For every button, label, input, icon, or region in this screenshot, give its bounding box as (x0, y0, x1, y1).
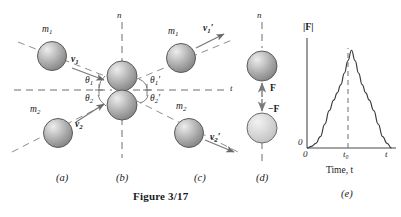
label-theta2-prime: θ2′ (150, 94, 160, 105)
label-theta1-prime: θ1′ (150, 76, 160, 87)
label-theta1: θ1 (85, 76, 93, 87)
panel-label-a: (a) (56, 173, 68, 184)
label-t-axis: t (230, 84, 233, 93)
label-theta2: θ2 (85, 94, 93, 105)
label-v1: v1 (71, 55, 79, 66)
chart-tick-t: t (385, 150, 388, 159)
label-m2-incoming: m2 (30, 105, 40, 116)
label-n-axis-center: n (117, 11, 122, 20)
label-m1-incoming: m1 (42, 25, 52, 36)
sphere-upper-panel-d (247, 51, 277, 81)
sphere-lower-panel-d (247, 113, 277, 143)
label-m2-outgoing: m2 (176, 102, 186, 113)
sphere-m2-incoming (44, 119, 73, 148)
sphere-m2-outgoing (175, 119, 204, 148)
angle-arc-theta2-prime (140, 95, 148, 103)
figure-3-17-diagram (0, 0, 401, 217)
chart-impulse-curve (307, 50, 392, 148)
chart-y-axis-label: |F| (303, 22, 314, 32)
sphere-m1-contact (107, 61, 137, 91)
chart-y-origin-label: 0 (298, 138, 303, 147)
angle-arc-theta2 (98, 95, 106, 106)
label-m1-outgoing: m1 (168, 27, 178, 38)
panel-label-e: (e) (341, 189, 353, 200)
velocity-arrow-v1-prime (196, 34, 224, 48)
chart-x-axis-label: Time, t (326, 166, 353, 176)
label-force-up: F (270, 84, 276, 94)
sphere-m2-contact (107, 90, 137, 120)
label-v1-prime: v1′ (203, 24, 213, 35)
label-v2-prime: v2′ (210, 133, 220, 144)
chart-tick-t0: t₀ (343, 150, 349, 159)
label-n-axis-panel-d: n (257, 11, 262, 20)
panel-label-d: (d) (256, 173, 268, 184)
panel-label-b: (b) (116, 173, 128, 184)
figure-caption: Figure 3/17 (133, 191, 188, 202)
chart-x-origin-label: 0 (303, 150, 308, 159)
label-v2: v2 (75, 120, 83, 131)
panel-e-chart (307, 38, 396, 148)
angle-arc-theta1-prime (139, 79, 147, 88)
label-force-down: −F (268, 105, 279, 115)
panel-label-c: (c) (194, 173, 206, 184)
sphere-m1-outgoing (167, 44, 196, 73)
sphere-m1-incoming (38, 42, 67, 71)
